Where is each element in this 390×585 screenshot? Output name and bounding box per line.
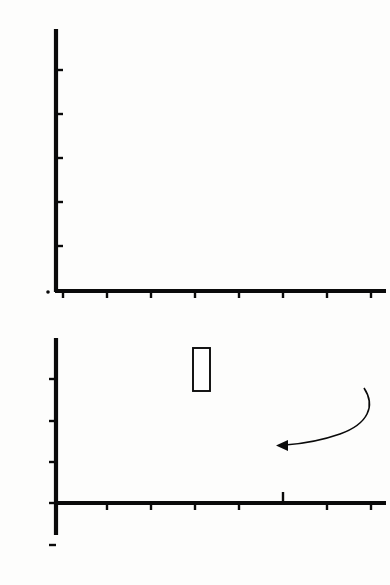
- baptisms-pointer-arrow: [285, 388, 369, 445]
- legend-swatch-gain-loss: [193, 348, 210, 391]
- baptisms-arrow-head: [276, 440, 288, 451]
- figure-container: [0, 0, 390, 585]
- origin-dot: [46, 290, 50, 294]
- membership-attendance-chart: [0, 0, 390, 320]
- annual-gain-loss-chart: [0, 320, 390, 560]
